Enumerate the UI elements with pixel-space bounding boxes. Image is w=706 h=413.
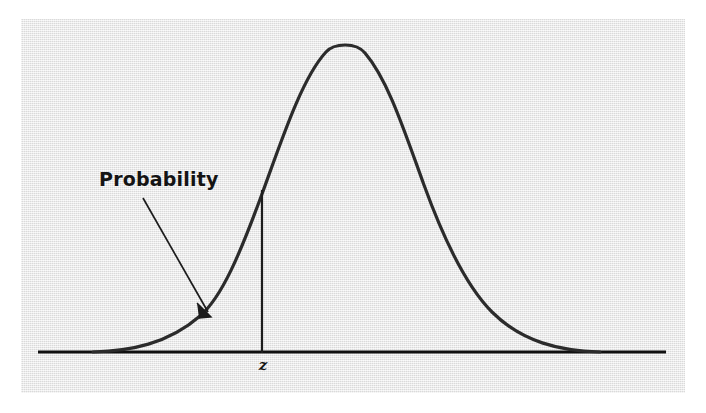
- z-axis-label: z: [255, 356, 271, 374]
- probability-label: Probability: [99, 168, 219, 190]
- figure-panel: [21, 19, 685, 393]
- figure-root: Probability z: [0, 0, 706, 413]
